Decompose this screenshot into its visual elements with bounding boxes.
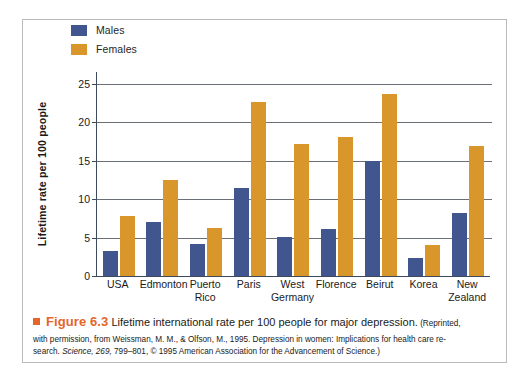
bar-females-edmonton (163, 180, 178, 276)
legend-label-females: Females (96, 43, 137, 55)
plot-area: 0510152025 (96, 72, 490, 277)
legend-label-males: Males (96, 24, 125, 36)
x-tick-label: West Germany (271, 278, 315, 303)
bar-males-west-germany (277, 237, 292, 276)
x-tick-label: Puerto Rico (183, 278, 227, 303)
y-tick-label-10: 10 (78, 193, 90, 205)
bar-males-new-zealand (452, 213, 467, 276)
figure-caption: Figure 6.3 Lifetime international rate p… (33, 314, 503, 359)
y-axis-title: Lifetime rate per 100 people (34, 72, 50, 276)
legend-swatch-icon-males (71, 25, 87, 36)
bar-females-new-zealand (469, 146, 484, 276)
bar-males-puerto-rico (190, 244, 205, 276)
bar-males-paris (234, 188, 249, 276)
y-axis-title-text: Lifetime rate per 100 people (36, 102, 48, 246)
plot-wrapper: Lifetime rate per 100 people 0510152025 … (38, 72, 498, 287)
bar-group (315, 72, 359, 276)
x-tick-label: Edmonton (140, 278, 184, 291)
bar-males-usa (103, 251, 118, 276)
y-tick-label-15: 15 (78, 155, 90, 167)
y-tick-label-20: 20 (78, 116, 90, 128)
caption-body: with permission, from Weissman, M. M., &… (33, 334, 503, 359)
bars-layer (97, 72, 490, 276)
bar-group (184, 72, 228, 276)
figure-container: Males Females Lifetime rate per 100 peop… (0, 0, 524, 375)
x-tick-label: Paris (227, 278, 271, 291)
bar-group (446, 72, 490, 276)
caption-source-journal: Science, 269, (62, 347, 112, 356)
bar-group (272, 72, 316, 276)
bar-males-florence (321, 229, 336, 276)
x-tick-label: New Zealand (445, 278, 489, 303)
legend-item-females: Females (71, 41, 201, 57)
chart-legend: Males Females (71, 22, 201, 60)
bar-females-puerto-rico (207, 228, 222, 276)
bar-group (141, 72, 185, 276)
x-axis-labels: USAEdmontonPuerto RicoParisWest GermanyF… (96, 278, 490, 314)
bar-group (403, 72, 447, 276)
legend-swatch-icon-females (71, 44, 87, 55)
figure-number-label: Figure 6.3 (46, 314, 108, 329)
y-tick-mark-0 (92, 276, 97, 277)
bar-females-usa (120, 216, 135, 276)
x-tick-label: USA (96, 278, 140, 291)
bar-females-korea (425, 245, 440, 276)
bar-females-florence (338, 137, 353, 276)
orange-square-icon (33, 318, 40, 325)
bar-males-edmonton (146, 222, 161, 276)
x-tick-label: Beirut (358, 278, 402, 291)
figure-credit-start: (Reprinted, (420, 319, 461, 328)
bar-males-korea (408, 258, 423, 276)
bar-females-beirut (382, 94, 397, 276)
caption-body-line2: with permission, from Weissman, M. M., &… (33, 335, 446, 344)
bar-group (97, 72, 141, 276)
y-tick-label-0: 0 (84, 270, 90, 282)
x-tick-label: Korea (402, 278, 446, 291)
y-tick-label-5: 5 (84, 232, 90, 244)
caption-body-line3-end: 799–801, © 1995 American Association for… (112, 347, 380, 356)
caption-heading-line: Figure 6.3 Lifetime international rate p… (33, 314, 503, 331)
legend-item-males: Males (71, 22, 201, 38)
bar-females-paris (251, 102, 266, 276)
figure-title: Lifetime international rate per 100 peop… (111, 316, 417, 328)
y-tick-label-25: 25 (78, 78, 90, 90)
bar-males-beirut (365, 161, 380, 276)
bar-group (228, 72, 272, 276)
x-tick-label: Florence (314, 278, 358, 291)
caption-body-line3-start: search. (33, 347, 62, 356)
bar-females-west-germany (294, 144, 309, 276)
bar-group (359, 72, 403, 276)
